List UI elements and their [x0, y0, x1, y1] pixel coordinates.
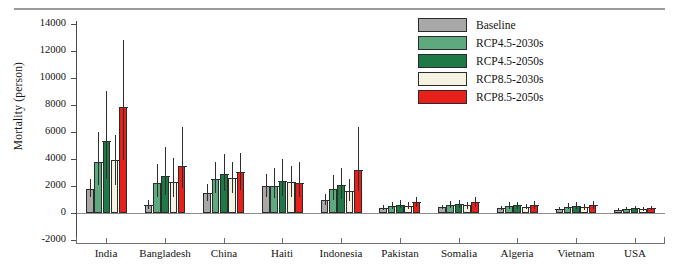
error-bar-cap — [647, 208, 656, 209]
error-bar-cap — [270, 186, 279, 187]
y-tick-label: 14000 — [0, 18, 66, 28]
legend-swatch-icon — [418, 36, 467, 50]
error-bar-line — [274, 168, 275, 198]
category-label-haiti: Haiti — [271, 247, 293, 260]
error-bar-cap — [337, 185, 346, 186]
error-bar-cap — [161, 176, 170, 177]
error-bar-cap — [530, 205, 539, 206]
category-label-pakistan: Pakistan — [381, 247, 418, 260]
error-bar-line — [90, 179, 91, 197]
y-tick-mark — [71, 51, 77, 52]
y-tick-mark — [71, 78, 77, 79]
error-bar-line — [349, 179, 350, 202]
category-tick-mark — [576, 238, 577, 244]
category-label-bangladesh: Bangladesh — [139, 247, 190, 260]
legend-item-rcp45-2030s[interactable]: RCP4.5-2030s — [418, 35, 662, 51]
error-bar-line — [215, 162, 216, 193]
category-tick-mark — [106, 238, 107, 244]
error-bar-cap — [119, 107, 128, 108]
y-tick-label: 6000 — [0, 126, 66, 136]
error-bar-cap — [379, 208, 388, 209]
legend-label: RCP4.5-2050s — [476, 55, 543, 68]
error-bar-cap — [622, 209, 631, 210]
y-tick-label: 10000 — [0, 72, 66, 82]
error-bar-cap — [102, 141, 111, 142]
y-tick-label: -2000 — [0, 234, 66, 244]
y-tick-label: 12000 — [0, 45, 66, 55]
error-bar-line — [299, 162, 300, 198]
legend-label: Baseline — [476, 19, 516, 32]
error-bar-cap — [513, 205, 522, 206]
error-bar-line — [98, 132, 99, 185]
error-bar-cap — [446, 205, 455, 206]
legend-swatch-icon — [418, 72, 467, 86]
error-bar-line — [106, 91, 107, 179]
category-axis-right-cap — [664, 237, 665, 244]
y-tick-mark — [71, 159, 77, 160]
error-bar-line — [341, 168, 342, 199]
category-tick-mark — [517, 238, 518, 244]
y-tick-mark — [71, 132, 77, 133]
error-bar-cap — [295, 183, 304, 184]
legend-item-baseline[interactable]: Baseline — [418, 17, 662, 33]
error-bar-line — [224, 154, 225, 192]
legend-item-rcp85-2030s[interactable]: RCP8.5-2030s — [418, 71, 662, 87]
y-tick-label: 4000 — [0, 153, 66, 163]
category-tick-mark — [635, 238, 636, 244]
error-bar-cap — [178, 166, 187, 167]
y-tick-mark — [71, 186, 77, 187]
mortality-bar-chart: Mortality (person) 140001200010000800060… — [0, 0, 679, 272]
error-bar-cap — [236, 172, 245, 173]
error-bar-line — [173, 158, 174, 196]
category-label-usa: USA — [624, 247, 646, 260]
error-bar-cap — [345, 191, 354, 192]
category-label-algeria: Algeria — [501, 247, 534, 260]
category-tick-mark — [459, 238, 460, 244]
legend-label: RCP4.5-2030s — [476, 37, 543, 50]
error-bar-cap — [144, 205, 153, 206]
error-bar-cap — [471, 202, 480, 203]
y-tick-label: 0 — [0, 207, 66, 217]
legend-label: RCP8.5-2050s — [476, 91, 543, 104]
category-tick-mark — [282, 238, 283, 244]
error-bar-line — [358, 127, 359, 192]
category-label-somalia: Somalia — [441, 247, 477, 260]
error-bar-cap — [211, 179, 220, 180]
error-bar-line — [333, 175, 334, 200]
error-bar-cap — [589, 205, 598, 206]
error-bar-line — [282, 159, 283, 196]
legend-item-rcp85-2050s[interactable]: RCP8.5-2050s — [418, 89, 662, 105]
chart-legend: BaselineRCP4.5-2030sRCP4.5-2050sRCP8.5-2… — [418, 17, 662, 105]
y-tick-mark — [71, 105, 77, 106]
error-bar-cap — [354, 170, 363, 171]
error-bar-line — [182, 127, 183, 188]
category-label-vietnam: Vietnam — [557, 247, 594, 260]
error-bar-cap — [278, 181, 287, 182]
legend-swatch-icon — [418, 18, 467, 32]
zero-baseline — [76, 213, 665, 214]
error-bar-cap — [203, 193, 212, 194]
category-axis-left-cap — [76, 237, 77, 244]
category-label-india: India — [95, 247, 118, 260]
category-label-china: China — [211, 247, 237, 260]
category-tick-mark — [165, 238, 166, 244]
error-bar-cap — [169, 182, 178, 183]
error-bar-line — [157, 164, 158, 196]
category-tick-mark — [400, 238, 401, 244]
legend-swatch-icon — [418, 54, 467, 68]
error-bar-cap — [555, 209, 564, 210]
legend-item-rcp45-2050s[interactable]: RCP4.5-2050s — [418, 53, 662, 69]
legend-label: RCP8.5-2030s — [476, 73, 543, 86]
category-label-indonesia: Indonesia — [320, 247, 363, 260]
error-bar-cap — [412, 202, 421, 203]
error-bar-cap — [220, 174, 229, 175]
error-bar-cap — [580, 207, 589, 208]
error-bar-line — [123, 40, 124, 160]
error-bar-cap — [404, 206, 413, 207]
category-tick-mark — [224, 238, 225, 244]
y-tick-label: 2000 — [0, 180, 66, 190]
y-tick-label: 8000 — [0, 99, 66, 109]
legend-swatch-icon — [418, 90, 467, 104]
y-tick-mark — [71, 24, 77, 25]
error-bar-line — [165, 147, 166, 195]
